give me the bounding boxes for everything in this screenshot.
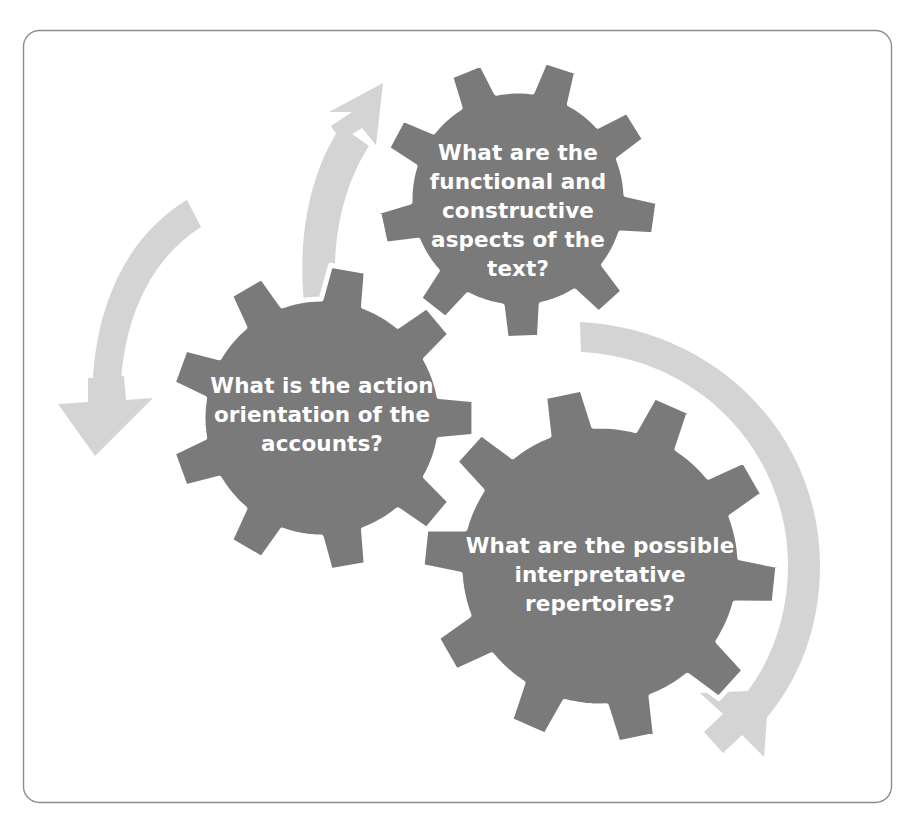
figure-root: What are thefunctional andconstructiveas… xyxy=(0,0,908,823)
label-line: What are the xyxy=(438,140,598,165)
label-line: orientation of the xyxy=(214,402,430,427)
label-line: aspects of the xyxy=(431,227,605,252)
label-line: repertoires? xyxy=(525,591,675,616)
label-line: accounts? xyxy=(261,431,383,456)
label-line: What is the action xyxy=(210,373,433,398)
label-line: constructive xyxy=(442,198,594,223)
label-line: What are the possible xyxy=(466,533,735,558)
label-line: functional and xyxy=(430,169,606,194)
label-line: interpretative xyxy=(514,562,685,587)
gears-diagram: What are thefunctional andconstructiveas… xyxy=(0,0,908,823)
label-line: text? xyxy=(487,256,549,281)
